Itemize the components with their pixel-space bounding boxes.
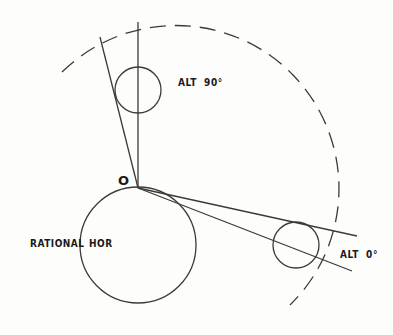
rational-horizon-label-left: RATIONAL [30,237,85,250]
horizon-sight-line-lower [138,188,352,271]
rational-horizon-label-right: HOR [89,237,113,250]
alt90-label: ALT 90° [178,76,223,89]
celestial-diagram [0,0,393,335]
horizon-sight-line-upper [138,188,357,236]
origin-label: O [118,173,129,188]
alt0-circle [273,222,319,268]
dashed-arc [62,26,339,305]
alt0-label: ALT 0° [340,248,378,261]
